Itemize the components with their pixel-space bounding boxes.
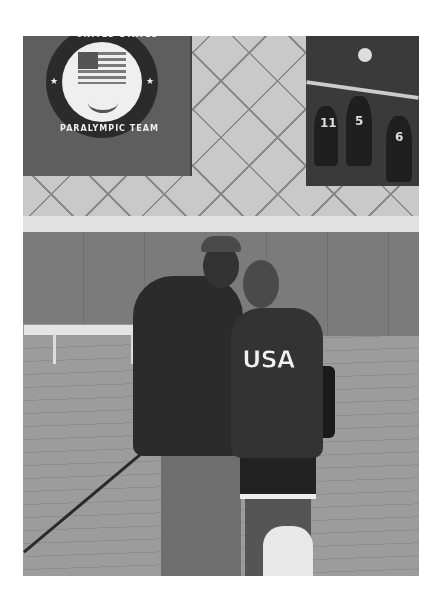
- jersey-number: 5: [355, 114, 363, 128]
- paralympic-team-banner: UNITED STATES ★ ★ PARALYMPIC TEAM: [23, 36, 192, 176]
- man-cap: [201, 236, 241, 252]
- jersey-number: 6: [395, 130, 403, 144]
- wall-trim: [23, 216, 419, 233]
- man-pants: [161, 448, 241, 576]
- woman-head: [243, 260, 279, 308]
- flag-canton: [78, 52, 98, 69]
- poster-player: 11: [314, 106, 338, 166]
- star-icon: ★: [50, 76, 58, 86]
- plastic-bag: [263, 526, 313, 576]
- woman-hoodie: [231, 308, 323, 458]
- hoodie-usa-text: USA: [242, 346, 294, 374]
- emblem-center: [62, 42, 142, 122]
- star-icon: ★: [146, 76, 154, 86]
- bench-leg: [53, 334, 56, 364]
- poster-player: 6: [386, 116, 412, 182]
- gym-photo: UNITED STATES ★ ★ PARALYMPIC TEAM 11 5 6: [23, 36, 419, 576]
- us-flag-icon: [78, 52, 126, 84]
- team-emblem: UNITED STATES ★ ★ PARALYMPIC TEAM: [46, 36, 158, 138]
- man-hoodie: [133, 276, 243, 456]
- jersey-number: 11: [320, 116, 337, 130]
- poster-player: 5: [346, 96, 372, 166]
- emblem-bottom-text: PARALYMPIC TEAM: [60, 124, 159, 133]
- sitting-volleyball-poster: 11 5 6: [306, 36, 419, 186]
- volleyball-icon: [358, 48, 372, 62]
- emblem-top-text: UNITED STATES: [76, 36, 158, 39]
- paralympic-agitos-icon: [88, 92, 118, 113]
